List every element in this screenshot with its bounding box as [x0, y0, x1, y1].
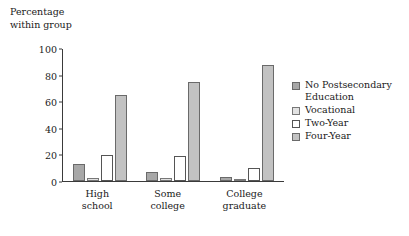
- bar-high-school-four-year: [115, 95, 127, 181]
- x-axis-category-labels: High school Some college College graduat…: [63, 188, 285, 212]
- bar-high-school-no-postsecondary: [73, 164, 85, 181]
- x-axis-line: [62, 181, 284, 182]
- bar-group-some-college: [145, 49, 201, 181]
- legend-swatch-no-postsecondary-education: [292, 82, 300, 90]
- legend-item-no-postsecondary-education: No Postsecondary Education: [292, 79, 407, 103]
- legend-item-vocational: Vocational: [292, 104, 407, 116]
- bar-some-college-vocational: [160, 178, 172, 181]
- y-tick-label-0: 0: [51, 177, 57, 188]
- bar-some-college-two-year: [174, 156, 186, 181]
- y-tick-mark-0: [59, 182, 62, 183]
- x-tick-label-some-college: Some college: [150, 188, 184, 212]
- y-tick-mark-40: [59, 128, 62, 129]
- bar-some-college-four-year: [188, 82, 200, 181]
- y-tick-label-20: 20: [45, 150, 57, 161]
- bar-group-college-graduate: [219, 49, 275, 181]
- y-tick-mark-100: [59, 49, 62, 50]
- y-tick-mark-80: [59, 75, 62, 76]
- legend-swatch-vocational: [292, 107, 300, 115]
- legend-swatch-two-year: [292, 120, 300, 128]
- legend-item-two-year: Two-Year: [292, 117, 407, 129]
- y-tick-label-60: 60: [45, 97, 57, 108]
- chart-legend: No Postsecondary Education Vocational Tw…: [292, 79, 407, 143]
- bar-college-graduate-no-postsecondary: [220, 177, 232, 181]
- y-tick-label-80: 80: [45, 70, 57, 81]
- legend-item-four-year: Four-Year: [292, 130, 407, 142]
- legend-label-two-year: Two-Year: [305, 117, 348, 129]
- bar-high-school-vocational: [87, 178, 99, 181]
- bar-some-college-no-postsecondary: [146, 172, 158, 181]
- legend-swatch-four-year: [292, 133, 300, 141]
- bar-groups: [63, 49, 284, 181]
- x-tick-label-high-school: High school: [82, 188, 113, 212]
- y-tick-mark-60: [59, 102, 62, 103]
- bar-college-graduate-vocational: [234, 179, 246, 181]
- y-tick-mark-20: [59, 155, 62, 156]
- y-tick-label-100: 100: [39, 44, 57, 55]
- bar-college-graduate-two-year: [248, 168, 260, 181]
- plot-area: 100 80 60 40 20 0: [62, 49, 284, 182]
- x-tick-label-college-graduate: College graduate: [223, 188, 267, 212]
- legend-label-four-year: Four-Year: [305, 130, 351, 142]
- y-axis-title: Percentage within group: [10, 6, 72, 31]
- bar-high-school-two-year: [101, 155, 113, 181]
- y-tick-label-40: 40: [45, 123, 57, 134]
- legend-label-vocational: Vocational: [305, 104, 355, 116]
- bar-group-high-school: [72, 49, 128, 181]
- legend-label-no-postsecondary-education: No Postsecondary Education: [305, 79, 392, 103]
- bar-college-graduate-four-year: [262, 65, 274, 181]
